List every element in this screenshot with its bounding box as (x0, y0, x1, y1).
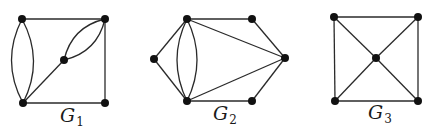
edge-c-d (252, 58, 285, 101)
edge-d-c (23, 60, 64, 103)
edge-e-c (187, 58, 285, 101)
edge-c-b (64, 19, 105, 60)
vertex-d (331, 97, 339, 105)
edge-d-a (334, 17, 335, 101)
edge-a-d (11, 19, 23, 103)
graph-label: G1 (60, 104, 84, 129)
vertex-e (183, 97, 191, 105)
graph-g2: G2 (150, 15, 289, 127)
edge-b-c (376, 17, 418, 58)
vertex-f (150, 55, 158, 63)
edge-f-a (154, 19, 187, 59)
edge-c-b (64, 19, 105, 60)
vertex-a (18, 15, 26, 23)
vertex-a (183, 15, 191, 23)
edge-a-d (22, 19, 34, 103)
vertex-e (101, 99, 109, 107)
edge-d-c (335, 58, 376, 101)
vertex-c (372, 54, 380, 62)
edge-a-e (187, 19, 197, 101)
edge-e-c (376, 58, 418, 101)
vertex-b (414, 13, 422, 21)
graphs-drawing: G1G2G3 (0, 0, 435, 134)
edge-a-c (334, 17, 376, 58)
edge-e-f (154, 59, 187, 101)
graph-g1: G1 (11, 15, 109, 129)
vertex-d (248, 97, 256, 105)
edge-a-c (187, 19, 285, 58)
vertex-c (281, 54, 289, 62)
edge-a-e (177, 19, 187, 101)
graph-g3: G3 (330, 13, 422, 126)
graph-label: G3 (368, 101, 392, 126)
vertex-e (414, 97, 422, 105)
graph-figure: G1G2G3 (0, 0, 435, 134)
vertex-b (101, 15, 109, 23)
vertex-d (19, 99, 27, 107)
vertex-a (330, 13, 338, 21)
graph-label: G2 (213, 102, 237, 127)
vertex-c (60, 56, 68, 64)
vertex-b (248, 15, 256, 23)
edge-b-c (252, 19, 285, 58)
